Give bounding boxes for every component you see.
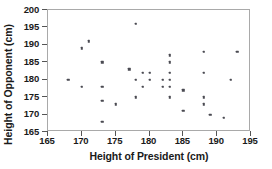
y-tick-label: 200 xyxy=(15,5,39,15)
data-point xyxy=(135,23,137,25)
x-tick-label: 165 xyxy=(34,136,60,146)
data-point xyxy=(202,96,204,98)
data-point xyxy=(135,79,137,81)
data-point xyxy=(169,96,171,98)
data-point xyxy=(101,61,103,63)
x-tick-label: 195 xyxy=(237,136,263,146)
data-points-layer xyxy=(48,10,249,130)
data-point xyxy=(101,120,103,122)
data-point xyxy=(169,79,171,81)
data-point xyxy=(209,113,211,115)
scatter-plot-figure: Height of Opponent (cm) Height of Presid… xyxy=(0,0,272,169)
data-point xyxy=(162,85,164,87)
x-tick-label: 170 xyxy=(68,136,94,146)
data-point xyxy=(223,117,225,119)
data-point xyxy=(81,47,83,49)
data-point xyxy=(202,103,204,105)
x-tick-label: 190 xyxy=(203,136,229,146)
data-point xyxy=(202,72,204,74)
data-point xyxy=(162,79,164,81)
y-axis-title: Height of Opponent (cm) xyxy=(0,0,16,169)
data-point xyxy=(81,85,83,87)
data-point xyxy=(142,85,144,87)
plot-area xyxy=(47,9,250,131)
x-tick-label: 185 xyxy=(169,136,195,146)
x-tick-label: 180 xyxy=(136,136,162,146)
data-point xyxy=(148,72,150,74)
y-tick-label: 170 xyxy=(15,109,39,119)
data-point xyxy=(169,54,171,56)
x-axis-title: Height of President (cm) xyxy=(47,150,251,162)
data-point xyxy=(148,79,150,81)
y-tick-label: 165 xyxy=(15,127,39,137)
y-tick-label: 175 xyxy=(15,92,39,102)
data-point xyxy=(101,99,103,101)
x-tick-label: 175 xyxy=(102,136,128,146)
data-point xyxy=(128,68,130,70)
data-point xyxy=(135,96,137,98)
data-point xyxy=(67,79,69,81)
y-tick-label: 195 xyxy=(15,22,39,32)
data-point xyxy=(142,72,144,74)
data-point xyxy=(236,51,238,53)
data-point xyxy=(169,61,171,63)
data-point xyxy=(229,79,231,81)
data-point xyxy=(101,85,103,87)
y-tick-label: 190 xyxy=(15,39,39,49)
data-point xyxy=(87,40,89,42)
data-point xyxy=(169,72,171,74)
data-point xyxy=(182,110,184,112)
data-point xyxy=(169,85,171,87)
data-point xyxy=(114,103,116,105)
data-point xyxy=(202,51,204,53)
y-tick-label: 180 xyxy=(15,74,39,84)
y-tick-label: 185 xyxy=(15,57,39,67)
data-point xyxy=(182,89,184,91)
